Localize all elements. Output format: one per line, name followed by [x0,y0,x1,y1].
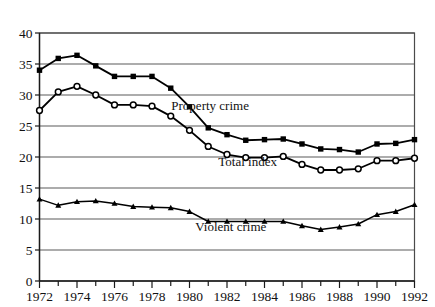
data-point [131,74,136,79]
data-point [299,141,304,146]
series-label-violent-crime: Violent crime [195,219,266,234]
data-point [205,144,211,150]
y-tick-label-20: 20 [19,150,33,165]
y-tick-label-15: 15 [19,181,33,196]
y-tick-label-40: 40 [19,26,33,41]
data-point [243,138,248,143]
x-tick-label-1976: 1976 [101,289,128,304]
y-tick-label-5: 5 [26,243,33,258]
data-point [374,158,380,164]
data-point [318,146,323,151]
data-point [168,85,173,90]
data-point [93,63,98,68]
series-label-property-crime: Property crime [171,98,249,113]
y-tick-label-25: 25 [19,119,33,134]
data-point [337,147,342,152]
y-tick-label-10: 10 [19,212,33,227]
data-point [224,132,229,137]
x-tick-label-1984: 1984 [251,289,278,304]
x-tick-label-1978: 1978 [139,289,166,304]
x-tick-label-1988: 1988 [326,289,353,304]
data-point [393,141,398,146]
line-chart-figure: 0510152025303540 19721974197619781980198… [0,0,435,307]
data-point [281,136,286,141]
data-point [187,127,193,133]
y-tick-label-0: 0 [26,274,33,289]
data-point [262,137,267,142]
data-point [74,83,80,89]
data-point [74,53,79,58]
data-point [374,141,379,146]
chart-canvas: 0510152025303540 19721974197619781980198… [0,0,435,307]
data-point [355,166,361,172]
x-tick-label-1992: 1992 [401,289,428,304]
x-tick-label-1974: 1974 [64,289,91,304]
data-point [130,102,136,108]
series-label-total-index: Total index [218,154,277,169]
data-point [37,68,42,73]
data-point [356,149,361,154]
x-tick-label-1982: 1982 [214,289,241,304]
data-point [318,167,324,173]
data-point [337,167,343,173]
data-point [93,92,99,98]
data-point [412,155,418,161]
y-tick-label-30: 30 [19,88,33,103]
data-point [56,56,61,61]
x-tick-label-1980: 1980 [176,289,203,304]
data-point [206,125,211,130]
x-tick-label-1986: 1986 [289,289,316,304]
data-point [168,113,174,119]
data-point [55,89,61,95]
data-point [112,74,117,79]
data-point [393,158,399,164]
data-point [412,137,417,142]
x-tick-label-1990: 1990 [364,289,391,304]
x-tick-label-1972: 1972 [26,289,53,304]
y-tick-label-35: 35 [19,57,33,72]
data-point [37,108,43,114]
data-point [149,103,155,109]
data-point [280,153,286,159]
data-point [112,102,118,108]
data-point [149,74,154,79]
data-point [299,162,305,168]
